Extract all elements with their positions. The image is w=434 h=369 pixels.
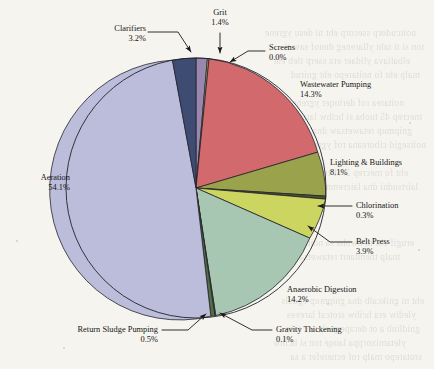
slice-label-wastewater-pumping: Wastewater Pumping 14.3% — [300, 80, 424, 101]
leader-line-screens — [230, 51, 265, 62]
slice-label-belt-press: Belt Press 3.9% — [356, 237, 428, 258]
slice-label-wastewater-pumping-percent: 14.3% — [300, 90, 424, 100]
slice-label-screens-name: Screens — [269, 43, 295, 52]
slice-label-lighting-and-buildings-name: Lighting & Buildings — [330, 158, 402, 167]
slice-label-anaerobic-digestion-percent: 14.2% — [287, 295, 407, 305]
slice-label-anaerobic-digestion-name: Anaerobic Digestion — [287, 285, 357, 294]
slice-label-gravity-thickening-name: Gravity Thickening — [276, 325, 342, 334]
slice-label-grit: Grit 1.4% — [198, 8, 242, 29]
slice-label-lighting-and-buildings: Lighting & Buildings 8.1% — [330, 158, 434, 179]
slice-label-return-sludge-pumping-percent: 0.5% — [28, 335, 158, 345]
slice-label-screens-percent: 0.0% — [269, 53, 339, 63]
slice-label-belt-press-percent: 3.9% — [356, 247, 428, 257]
slice-label-anaerobic-digestion: Anaerobic Digestion 14.2% — [287, 285, 407, 306]
slice-label-screens: Screens 0.0% — [269, 43, 339, 64]
slice-label-return-sludge-pumping-name: Return Sludge Pumping — [78, 325, 159, 334]
slice-label-return-sludge-pumping: Return Sludge Pumping 0.5% — [28, 325, 158, 346]
slice-label-chlorination-percent: 0.3% — [356, 211, 434, 221]
slice-label-gravity-thickening: Gravity Thickening 0.1% — [276, 325, 392, 346]
slice-label-grit-percent: 1.4% — [198, 18, 242, 28]
slice-label-gravity-thickening-percent: 0.1% — [276, 335, 392, 345]
slice-label-chlorination-name: Chlorination — [356, 201, 398, 210]
leader-line-gravity-thickening — [220, 313, 272, 330]
leader-line-clarifiers — [148, 32, 191, 52]
slice-label-aeration-name: Aeration — [41, 173, 70, 182]
pie-slices — [50, 58, 326, 320]
slice-label-clarifiers-percent: 3.2% — [62, 34, 146, 44]
slice-label-aeration-percent: 54.1% — [8, 183, 70, 193]
slice-label-clarifiers-name: Clarifiers — [114, 24, 146, 33]
slice-label-lighting-and-buildings-percent: 8.1% — [330, 168, 434, 178]
slice-label-chlorination: Chlorination 0.3% — [356, 201, 434, 222]
slice-label-belt-press-name: Belt Press — [356, 237, 390, 246]
slice-label-grit-name: Grit — [213, 8, 227, 17]
slice-label-clarifiers: Clarifiers 3.2% — [62, 24, 146, 45]
slice-label-wastewater-pumping-name: Wastewater Pumping — [300, 80, 371, 89]
slice-label-aeration: Aeration 54.1% — [8, 173, 70, 194]
chart-page: noitcudorp ssecorp eht ni desu ygrene to… — [0, 0, 434, 369]
